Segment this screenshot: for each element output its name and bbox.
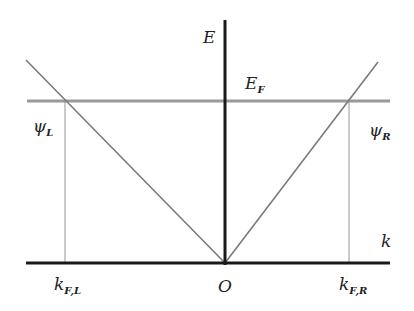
band-diagram: E EF ψL ψR k kF,L O kF,R <box>0 0 414 311</box>
origin-label: O <box>218 276 232 296</box>
psi-left-label: ψL <box>33 116 53 138</box>
kf-left-label: kF,L <box>54 274 81 297</box>
fermi-level-label: EF <box>244 73 265 95</box>
left-dispersion-branch <box>26 60 225 263</box>
energy-axis-label: E <box>202 27 216 47</box>
momentum-axis-label: k <box>381 231 391 251</box>
psi-right-label: ψR <box>369 120 391 142</box>
kf-right-label: kF,R <box>339 274 367 297</box>
